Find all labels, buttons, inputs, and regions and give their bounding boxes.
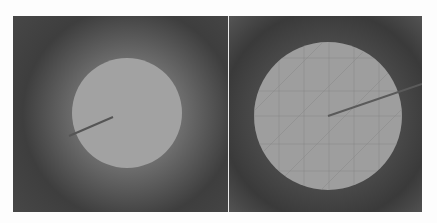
right-disc-graphic xyxy=(229,16,422,212)
left-disc xyxy=(72,58,182,168)
left-panel-disc-image xyxy=(13,16,228,212)
right-panel-disc-image xyxy=(229,16,422,212)
left-disc-graphic xyxy=(13,16,228,212)
